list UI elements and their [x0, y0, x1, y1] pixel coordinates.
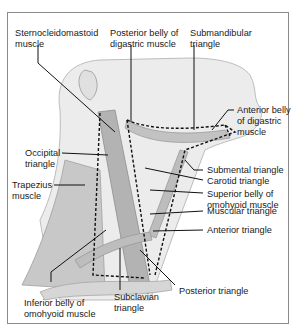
label-posterior-belly-digastric: Posterior belly of digastric muscle	[110, 28, 178, 50]
label-anterior-triangle: Anterior triangle	[207, 225, 272, 236]
label-carotid-triangle: Carotid triangle	[207, 176, 269, 187]
label-anterior-belly-digastric: Anterior belly of digastric muscle	[237, 105, 291, 138]
label-trapezius-muscle: Trapezius muscle	[12, 180, 52, 202]
label-submental-triangle: Submental triangle	[207, 165, 284, 176]
label-submandibular-triangle: Submandibular triangle	[190, 28, 252, 50]
label-inferior-belly-omohyoid: Inferior belly of omohyoid muscle	[24, 298, 96, 320]
label-muscular-triangle: Muscular triangle	[207, 206, 277, 217]
label-occipital-triangle: Occipital triangle	[25, 148, 60, 170]
label-posterior-triangle: Posterior triangle	[179, 286, 248, 297]
label-sternocleidomastoid-muscle: Sternocleidomastoid muscle	[15, 28, 98, 50]
label-subclavian-triangle: Subclavian triangle	[114, 292, 159, 314]
